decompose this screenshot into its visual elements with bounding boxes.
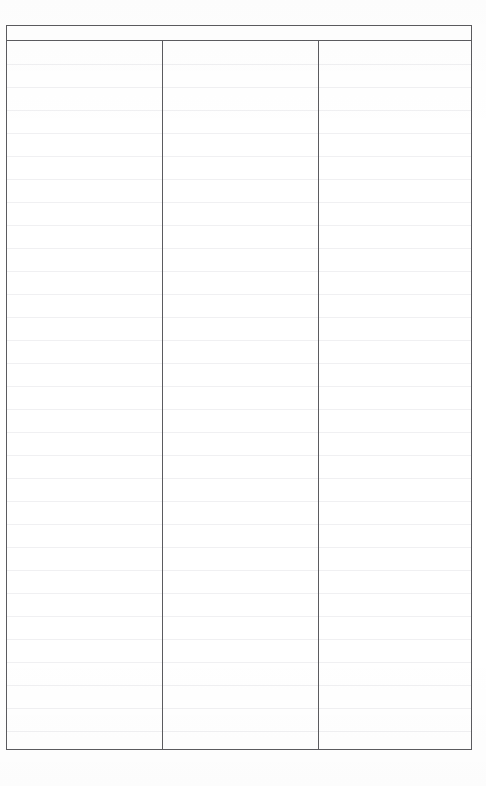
table-header-cell-1[interactable] (7, 26, 162, 40)
table-header-cell-2[interactable] (162, 26, 318, 40)
table-body (7, 41, 471, 749)
form-table (6, 25, 472, 750)
table-body-column-1[interactable] (7, 41, 162, 749)
table-body-column-2[interactable] (163, 41, 318, 749)
table-body-column-3[interactable] (319, 41, 471, 749)
table-header-row (7, 26, 471, 41)
table-header-cell-3[interactable] (318, 26, 471, 40)
page-surface (0, 0, 486, 786)
